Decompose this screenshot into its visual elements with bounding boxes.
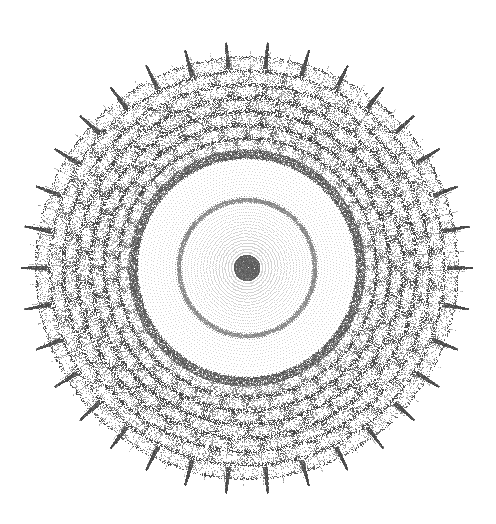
radial-point-cloud-canvas <box>0 0 496 524</box>
figure-root: Radial point cloud mandala <box>0 0 496 524</box>
